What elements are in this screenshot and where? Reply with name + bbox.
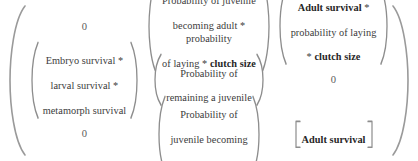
cell-text-r3c2: Probability of juvenile becoming adult <box>170 97 247 161</box>
cell-line-1: Probability of juvenile <box>162 0 256 6</box>
cell-line-2: probability of laying <box>291 27 377 38</box>
cell-line-3: adult <box>199 159 220 161</box>
left-parenthesis-icon <box>30 41 40 119</box>
bracketed-expression-r2c1: Embryo survival * larval survival * meta… <box>30 41 140 119</box>
bracketed-expression-r1c3: Adult survival * probability of laying *… <box>278 0 390 66</box>
right-parenthesis-icon <box>379 0 389 66</box>
cell-value-r3c1: 0 <box>82 128 87 140</box>
cell-text-r3c3: Adult survival <box>302 122 366 147</box>
bracketed-expression-r3c3: Adult survival <box>294 120 374 149</box>
cell-line-2: becoming adult * probability <box>173 20 245 43</box>
right-parenthesis-icon <box>251 95 261 161</box>
cell-label-bold: Adult survival <box>302 134 366 145</box>
cell-line-3-bold: clutch size <box>314 51 360 62</box>
matrix-grid: 0 Probability of juvenile becoming adult… <box>24 0 394 161</box>
cell-value-r1c1: 0 <box>82 21 87 33</box>
cell-line-1: Probability of <box>180 109 238 120</box>
cell-value-r2c3: 0 <box>331 74 336 86</box>
cell-line-2: larval survival * <box>51 80 119 91</box>
matrix-cell-r1c3: Adult survival * probability of laying *… <box>273 0 394 53</box>
cell-line-1: Probability of <box>180 68 238 79</box>
right-parenthesis-icon <box>129 41 139 119</box>
matrix-figure: 0 Probability of juvenile becoming adult… <box>0 0 418 161</box>
matrix-cell-r3c3: Adult survival <box>273 107 394 161</box>
left-parenthesis-icon <box>278 0 288 66</box>
cell-line-3: metamorph survival <box>43 105 127 116</box>
right-square-bracket-icon <box>367 120 374 149</box>
matrix-cell-r3c2: Probability of juvenile becoming adult <box>145 107 273 161</box>
left-square-bracket-icon <box>294 120 301 149</box>
matrix-cell-r2c1: Embryo survival * larval survival * meta… <box>24 53 145 107</box>
bracketed-expression-r3c2: Probability of juvenile becoming adult <box>157 95 260 161</box>
cell-line-1-bold: Adult survival <box>298 2 362 13</box>
cell-line-1: Embryo survival * <box>46 55 124 66</box>
cell-text-r1c3: Adult survival * probability of laying *… <box>291 0 377 64</box>
cell-line-2: juvenile becoming <box>170 134 247 145</box>
left-parenthesis-icon <box>157 95 167 161</box>
cell-text-r2c1: Embryo survival * larval survival * meta… <box>43 43 127 117</box>
matrix-cell-r1c2: Probability of juvenile becoming adult *… <box>145 0 273 53</box>
cell-line-1-plain: * <box>362 2 370 13</box>
